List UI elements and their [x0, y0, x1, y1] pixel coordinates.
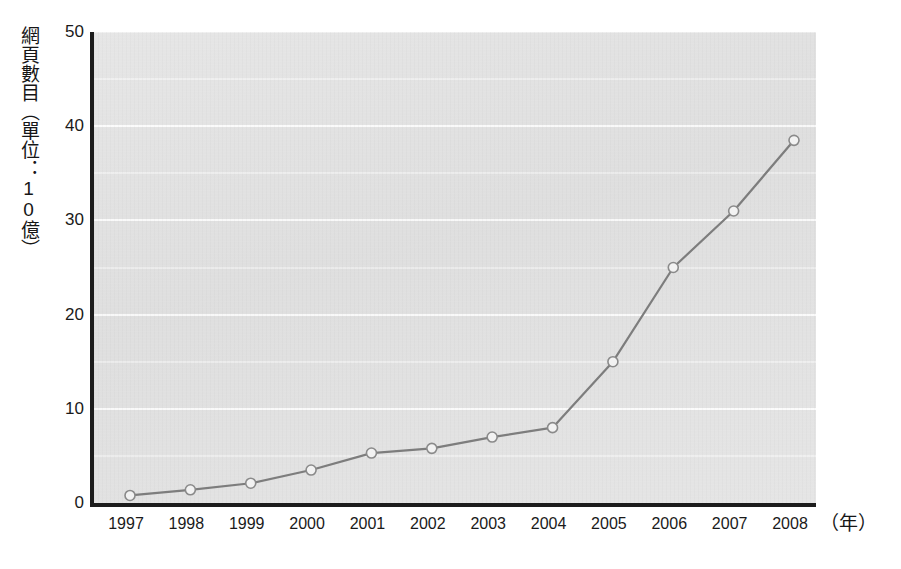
data-point-marker — [185, 485, 195, 495]
y-axis-title: 網頁數目（單位：10億） — [8, 26, 38, 258]
series-line — [130, 140, 794, 495]
data-point-marker — [608, 357, 618, 367]
data-point-marker — [729, 206, 739, 216]
data-point-marker — [487, 432, 497, 442]
x-tick-label: 2002 — [398, 516, 458, 532]
y-tick-label: 30 — [46, 211, 84, 228]
data-point-marker — [668, 263, 678, 273]
data-point-marker — [246, 478, 256, 488]
x-tick-label: 2000 — [277, 516, 337, 532]
y-axis-tick-labels: 01020304050 — [42, 0, 84, 569]
data-point-marker — [548, 423, 558, 433]
x-axis-unit-label: （年） — [820, 514, 877, 533]
y-tick-label: 50 — [46, 23, 84, 40]
data-point-marker — [789, 135, 799, 145]
data-point-marker — [366, 448, 376, 458]
data-point-marker — [306, 465, 316, 475]
x-tick-label: 2006 — [639, 516, 699, 532]
data-point-marker — [427, 443, 437, 453]
data-point-marker — [125, 490, 135, 500]
y-tick-label: 10 — [46, 400, 84, 417]
x-tick-label: 2005 — [579, 516, 639, 532]
x-tick-label: 2004 — [519, 516, 579, 532]
x-tick-label: 1998 — [156, 516, 216, 532]
y-tick-label: 0 — [46, 494, 84, 511]
x-axis-tick-labels: （年） 199719981999200020012002200320042005… — [0, 516, 901, 546]
x-tick-label: 1999 — [217, 516, 277, 532]
line-chart: 網頁數目（單位：10億） 01020304050 （年） 19971998199… — [0, 0, 901, 569]
plot-area — [90, 32, 816, 507]
x-tick-label: 1997 — [96, 516, 156, 532]
x-tick-label: 2001 — [337, 516, 397, 532]
x-tick-label: 2003 — [458, 516, 518, 532]
x-tick-label: 2008 — [760, 516, 820, 532]
y-tick-label: 40 — [46, 117, 84, 134]
x-tick-label: 2007 — [700, 516, 760, 532]
data-series-webpages — [94, 32, 816, 503]
y-tick-label: 20 — [46, 306, 84, 323]
